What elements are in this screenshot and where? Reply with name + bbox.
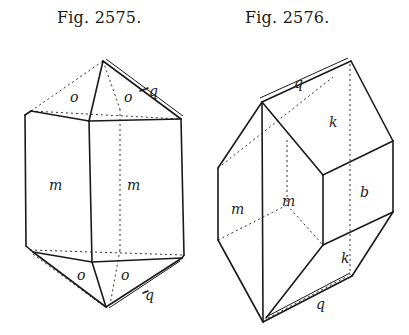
crystal-fig-2575: o o q m m o o q xyxy=(25,59,184,308)
face-label-m: m xyxy=(49,177,62,193)
face-label-o: o xyxy=(124,89,132,105)
face-label-b: b xyxy=(360,184,369,200)
crystal-fig-2576: q k m m b k q xyxy=(218,58,393,322)
face-label-o: o xyxy=(121,267,129,283)
face-label-k: k xyxy=(341,250,349,266)
crystal-diagrams: o o q m m o o q q k m xyxy=(0,0,409,335)
face-label-q: q xyxy=(316,296,325,312)
face-label-o: o xyxy=(70,89,78,105)
face-label-q: q xyxy=(145,287,154,303)
face-label-q: q xyxy=(149,83,158,99)
face-label-m: m xyxy=(127,177,140,193)
face-label-q: q xyxy=(294,75,303,91)
face-label-m: m xyxy=(231,201,244,217)
face-label-k: k xyxy=(329,114,337,130)
face-label-o: o xyxy=(77,267,85,283)
face-label-m: m xyxy=(282,193,295,209)
